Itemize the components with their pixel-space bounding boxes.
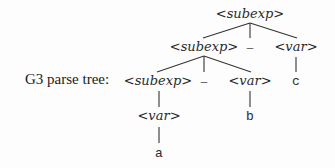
node-l3-var: <var> bbox=[228, 73, 271, 88]
node-l2-minus: – bbox=[246, 39, 254, 54]
node-l5-a: a bbox=[155, 146, 163, 161]
node-l3-minus: – bbox=[200, 73, 208, 88]
node-l3-subexp: <subexp> bbox=[124, 73, 193, 88]
node-l3-c: c bbox=[292, 74, 300, 89]
diagram-label: G3 parse tree: bbox=[25, 71, 109, 87]
node-root-subexp: <subexp> bbox=[216, 6, 285, 21]
edge-l2subexp-to-var bbox=[204, 56, 251, 72]
node-l4-b: b bbox=[246, 109, 254, 124]
node-l2-subexp: <subexp> bbox=[170, 39, 239, 54]
node-l4-var: <var> bbox=[137, 108, 180, 123]
parse-tree-svg: G3 parse tree: <subexp> <subexp> – <var>… bbox=[0, 0, 335, 168]
edge-root-to-var bbox=[250, 23, 297, 38]
edge-root-to-subexp bbox=[203, 23, 250, 38]
edge-l2subexp-to-subexp bbox=[157, 56, 204, 72]
node-l2-var: <var> bbox=[274, 39, 317, 54]
parse-tree-diagram: G3 parse tree: <subexp> <subexp> – <var>… bbox=[0, 0, 335, 168]
